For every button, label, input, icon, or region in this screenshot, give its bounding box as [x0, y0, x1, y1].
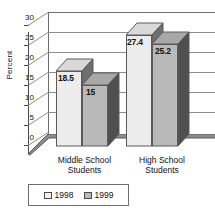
value-label-high-1998: 27.4 — [127, 37, 143, 47]
legend-label-1999: 1999 — [95, 190, 114, 200]
legend-swatch-1999-icon — [84, 192, 92, 199]
category-line-2: Students — [42, 165, 127, 175]
legend-label-1998: 1998 — [55, 190, 74, 200]
plot-area: 18.5 15 27.4 25.2 — [20, 8, 215, 153]
category-line-2: Students — [122, 165, 202, 175]
value-label-middle-1999: 15 — [86, 87, 95, 97]
bar-chart: Percent 30 25 20 15 10 5 0 — [0, 0, 215, 211]
legend-item-1999[interactable]: 1999 — [84, 190, 114, 200]
y-axis-label: Percent — [5, 35, 19, 95]
legend-swatch-1998-icon — [44, 192, 52, 199]
value-label-high-1999: 25.2 — [155, 46, 171, 56]
category-line-1: Middle School — [42, 155, 127, 165]
category-label-high-school: High School Students — [122, 155, 202, 175]
legend: 1998 1999 — [28, 184, 129, 206]
legend-item-1998[interactable]: 1998 — [44, 190, 74, 200]
category-line-1: High School — [122, 155, 202, 165]
bar-middle-1999[interactable] — [82, 73, 108, 146]
category-label-middle-school: Middle School Students — [42, 155, 127, 175]
value-label-middle-1998: 18.5 — [58, 73, 74, 83]
